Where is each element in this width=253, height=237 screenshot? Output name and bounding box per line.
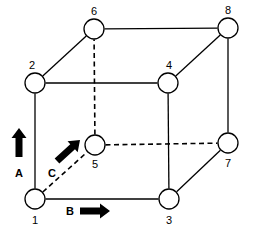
vertex-label-6: 6	[91, 6, 97, 17]
cube-graphic	[0, 0, 253, 237]
direction-arrow-c	[55, 140, 80, 164]
cube-vertex-6	[84, 19, 104, 39]
cube-edge-5-7	[105, 143, 217, 145]
arrow-label-c: C	[48, 168, 56, 179]
vertex-label-1: 1	[32, 215, 38, 226]
cube-edge-5-6	[94, 39, 95, 134]
node-layer	[25, 18, 238, 209]
vertex-label-2: 2	[29, 60, 35, 71]
vertex-label-7: 7	[225, 158, 231, 169]
direction-arrow-a	[12, 128, 27, 157]
vertex-label-4: 4	[166, 60, 172, 71]
cube-edge-6-8	[104, 28, 217, 29]
cube-edge-2-6	[43, 36, 87, 76]
cube-edge-3-4	[168, 93, 169, 188]
cube-vertex-3	[159, 189, 179, 209]
direction-arrow-b	[80, 204, 110, 219]
cube-vertex-1	[25, 189, 45, 209]
cube-vertex-5	[85, 135, 105, 155]
cube-vertex-4	[158, 73, 178, 93]
cube-vertex-7	[218, 133, 238, 153]
vertex-label-3: 3	[166, 215, 172, 226]
cube-vertex-8	[218, 18, 238, 38]
cube-diagram: 12345678ABC	[0, 0, 253, 237]
vertex-label-8: 8	[225, 5, 231, 16]
arrow-label-a: A	[15, 168, 23, 179]
cube-edge-3-7	[177, 150, 221, 192]
vertex-label-5: 5	[92, 159, 98, 170]
edge-layer	[35, 28, 228, 199]
arrow-label-b: B	[66, 206, 74, 217]
cube-edge-4-8	[176, 35, 221, 76]
cube-vertex-2	[25, 73, 45, 93]
